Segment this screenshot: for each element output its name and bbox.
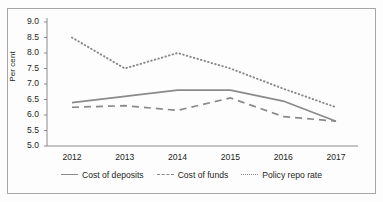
series-line [72, 38, 336, 108]
plot-area: Per cent 5.05.56.06.57.07.58.08.59.0 201… [0, 0, 383, 202]
legend-label: Cost of funds [178, 170, 229, 180]
chart-figure: Per cent 5.05.56.06.57.07.58.08.59.0 201… [0, 0, 383, 202]
legend-swatch-dotted-icon [241, 171, 258, 179]
legend-item[interactable]: Policy repo rate [241, 170, 322, 180]
legend-item[interactable]: Cost of deposits [61, 170, 144, 180]
axis-lines [47, 18, 358, 146]
legend-swatch-dashed-icon [157, 171, 174, 179]
legend-label: Policy repo rate [262, 170, 322, 180]
legend-label: Cost of deposits [82, 170, 144, 180]
chart-legend: Cost of depositsCost of fundsPolicy repo… [0, 170, 383, 180]
legend-swatch-solid-icon [61, 171, 78, 179]
legend-item[interactable]: Cost of funds [157, 170, 229, 180]
series-lines [72, 38, 336, 122]
series-line [72, 98, 336, 121]
